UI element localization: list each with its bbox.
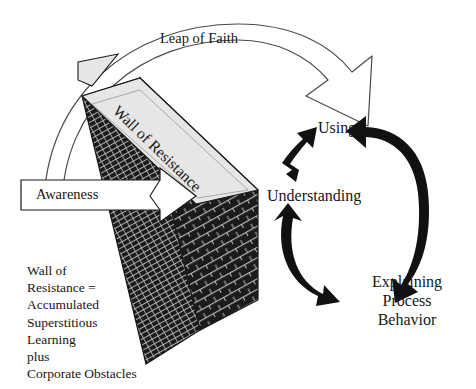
understanding-label: Understanding	[267, 187, 361, 205]
understanding-using-arrow	[282, 127, 317, 182]
awareness-label: Awareness	[36, 186, 98, 203]
wall-definition-caption: Wall of Resistance = Accumulated Superst…	[27, 262, 137, 382]
understanding-explaining-arrow	[274, 203, 340, 306]
leap-of-faith-label: Leap of Faith	[160, 30, 238, 47]
using-label: Using	[318, 119, 356, 137]
explaining-process-behavior-label: Explaining Process Behavior	[352, 272, 462, 329]
